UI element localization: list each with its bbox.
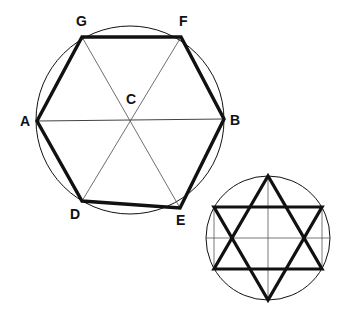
center-label-C: C	[126, 91, 136, 107]
vertex-label-F: F	[179, 13, 188, 29]
vertex-label-D: D	[70, 206, 80, 222]
geometry-figure-canvas: A G F B E D C	[0, 0, 341, 309]
vertex-label-E: E	[176, 212, 185, 228]
vertex-label-B: B	[230, 112, 240, 128]
vertex-label-A: A	[20, 113, 30, 129]
vertex-label-G: G	[76, 13, 87, 29]
